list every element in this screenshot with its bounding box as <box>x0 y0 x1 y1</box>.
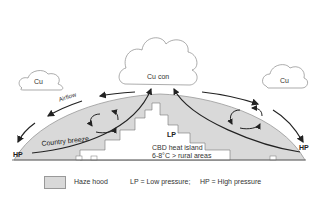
hp-right-label: HP <box>299 144 309 151</box>
rural-building <box>270 156 276 160</box>
haze-hood-swatch <box>44 176 66 189</box>
hp-left-label: HP <box>13 151 23 158</box>
legend-haze-hood: Haze hood <box>74 178 108 185</box>
lp-label: LP <box>167 131 176 138</box>
diagram-canvas <box>0 0 319 199</box>
legend-lp-definition: LP = Low pressure; <box>130 178 190 185</box>
cloud-right-label: Cu <box>280 77 289 84</box>
cloud-left-label: Cu <box>34 78 43 85</box>
rural-building <box>76 156 82 160</box>
rural-building <box>91 156 97 160</box>
legend-hp-definition: HP = High pressure <box>200 178 261 185</box>
cloud-center-label: Cu con <box>147 73 169 80</box>
cbd-heat-island-label: CBD heat island <box>152 144 203 151</box>
cbd-temperature-label: 6-8°C > rural areas <box>152 152 211 159</box>
airflow-arrow <box>100 92 135 96</box>
